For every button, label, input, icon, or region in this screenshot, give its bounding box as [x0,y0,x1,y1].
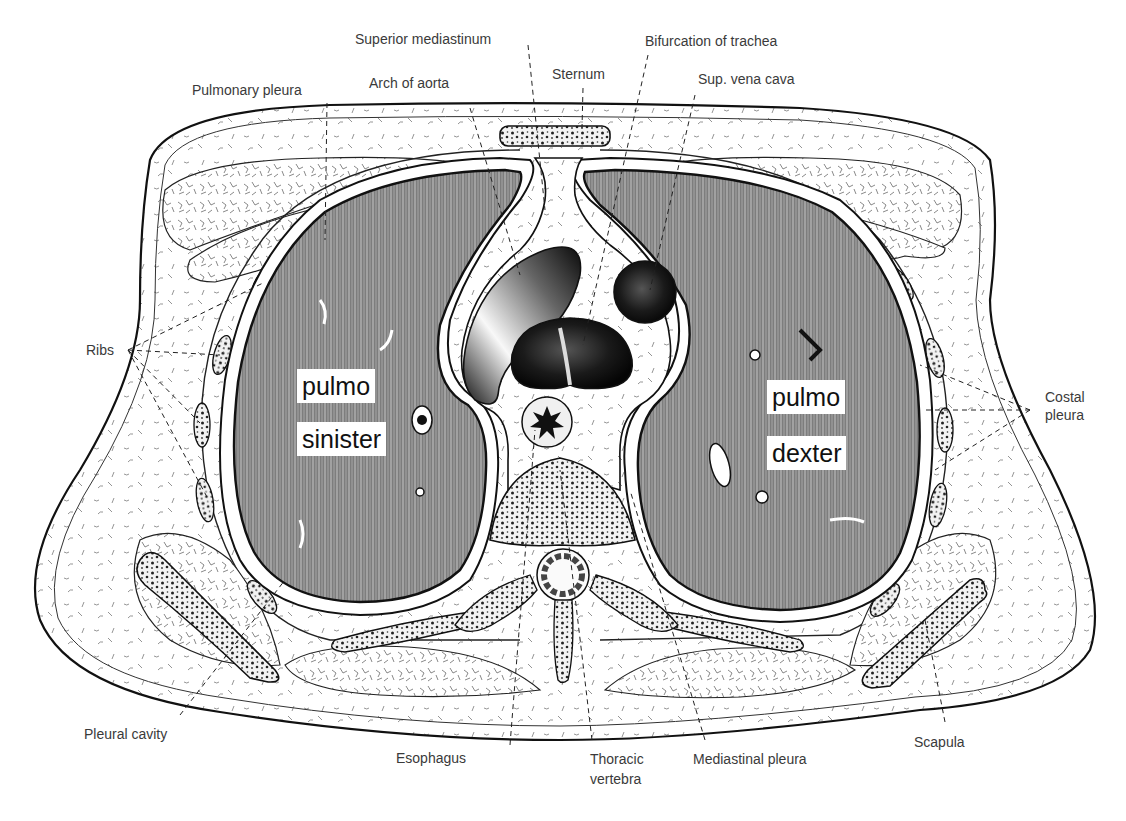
label-sup-vena-cava: Sup. vena cava [698,71,795,88]
label-mediastinal-pleura: Mediastinal pleura [693,751,807,768]
sternum [500,126,610,146]
label-costal-pleura-line2: pleura [1045,407,1084,424]
label-pulmonary-pleura: Pulmonary pleura [192,82,302,99]
label-sternum: Sternum [552,66,605,83]
label-costal-pleura-line1: Costal [1045,389,1085,406]
lung-label-right-line1: pulmo [767,380,845,414]
lung-label-left-line1: pulmo [297,369,375,403]
label-scapula: Scapula [914,734,965,751]
spinous-process [554,600,573,683]
label-arch-of-aorta: Arch of aorta [369,75,449,92]
label-esophagus: Esophagus [396,750,466,767]
label-superior-mediastinum: Superior mediastinum [355,31,491,48]
lung-label-right-line2: dexter [767,436,846,470]
label-thoracic-vertebra-line1: Thoracic [590,751,644,768]
superior-vena-cava [614,261,676,323]
label-thoracic-vertebra-line2: vertebra [590,771,641,788]
label-bifurcation-of-trachea: Bifurcation of trachea [645,33,777,50]
lung-label-left-line2: sinister [297,422,386,456]
thorax-cross-section-drawing [0,0,1126,821]
label-pleural-cavity: Pleural cavity [84,726,167,743]
thorax-cross-section-figure: pulmo sinister pulmo dexter Superior med… [0,0,1126,821]
label-ribs: Ribs [86,342,114,359]
